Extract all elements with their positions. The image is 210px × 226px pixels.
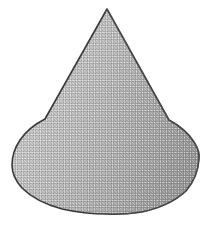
cone-texture-group	[0, 0, 210, 226]
vertical-shading-overlay	[0, 0, 210, 226]
figure-canvas	[0, 0, 210, 226]
cone-illustration	[0, 0, 210, 226]
